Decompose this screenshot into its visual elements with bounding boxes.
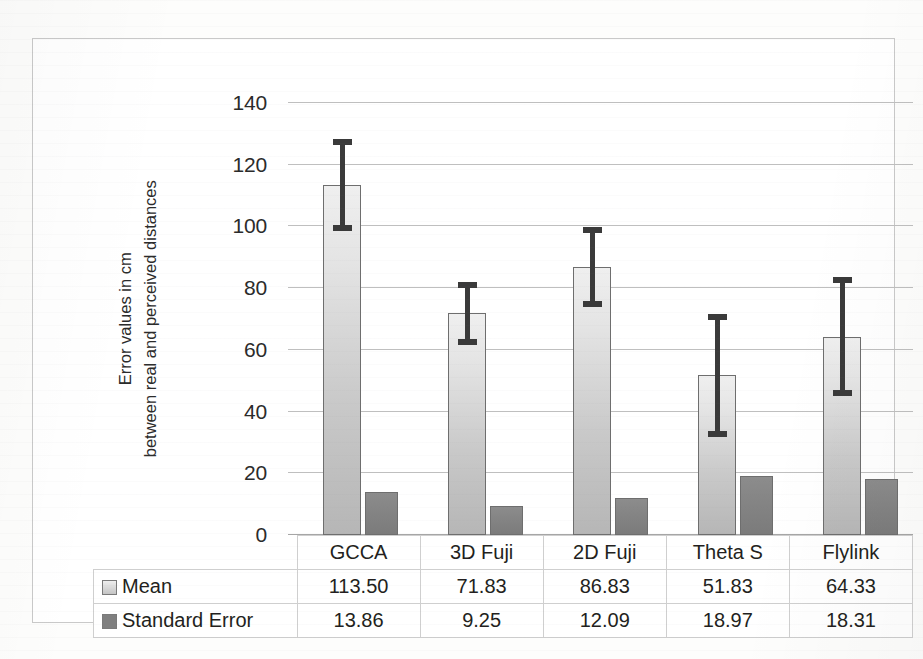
y-tick-label-100: 100: [233, 214, 267, 238]
y-tick-label-20: 20: [244, 461, 267, 485]
error-bar-gcca: [340, 142, 345, 228]
error-bar-cap-upper-3d-fuji: [458, 282, 477, 288]
table-cell-standard-error-flylink: 18.31: [789, 604, 912, 638]
bar-mean-3d-fuji: [448, 313, 486, 535]
y-axis-title: Error values in cm between real and perc…: [89, 103, 185, 535]
bar-mean-gcca: [323, 185, 361, 535]
y-tick-label-40: 40: [244, 400, 267, 424]
error-bar-flylink: [840, 280, 845, 393]
table-header-gcca: GCCA: [297, 536, 420, 570]
error-bar-cap-lower-gcca: [333, 225, 352, 231]
chart-frame: Error values in cm between real and perc…: [32, 38, 895, 623]
table-cell-mean-theta-s: 51.83: [666, 570, 789, 604]
error-bar-2d-fuji: [590, 230, 595, 305]
table-corner-cell: [94, 536, 298, 570]
error-bar-theta-s: [715, 317, 720, 434]
bar-standard-error-theta-s: [740, 476, 773, 535]
y-axis-title-line-1: Error values in cm: [112, 180, 137, 457]
plot-area: [288, 103, 913, 535]
error-bar-cap-upper-theta-s: [708, 314, 727, 320]
mean-swatch-icon: [102, 580, 117, 595]
y-axis-title-line-2: between real and perceived distances: [137, 180, 162, 457]
table-cell-standard-error-gcca: 13.86: [297, 604, 420, 638]
table-row: Mean113.5071.8386.8351.8364.33: [94, 570, 913, 604]
standard-error-swatch-icon: [102, 614, 117, 629]
table-cell-standard-error-theta-s: 18.97: [666, 604, 789, 638]
bar-standard-error-flylink: [865, 479, 898, 535]
table-cell-mean-2d-fuji: 86.83: [543, 570, 666, 604]
error-bar-cap-upper-2d-fuji: [583, 227, 602, 233]
bar-standard-error-gcca: [365, 492, 398, 535]
table-cell-mean-3d-fuji: 71.83: [420, 570, 543, 604]
y-tick-label-60: 60: [244, 338, 267, 362]
error-bar-cap-lower-flylink: [833, 390, 852, 396]
bar-group-flylink: [788, 103, 913, 535]
legend-label: Mean: [122, 575, 172, 597]
bar-group-3d-fuji: [413, 103, 538, 535]
bar-standard-error-3d-fuji: [490, 506, 523, 535]
bar-group-gcca: [288, 103, 413, 535]
y-tick-label-120: 120: [233, 153, 267, 177]
bar-group-theta-s: [663, 103, 788, 535]
bar-group-2d-fuji: [538, 103, 663, 535]
table-row-label-mean: Mean: [94, 570, 298, 604]
y-axis-tick-labels: 020406080100120140: [183, 103, 279, 535]
table-cell-standard-error-2d-fuji: 12.09: [543, 604, 666, 638]
error-bar-cap-lower-2d-fuji: [583, 301, 602, 307]
table-header-flylink: Flylink: [789, 536, 912, 570]
table-header-2d-fuji: 2D Fuji: [543, 536, 666, 570]
legend-label: Standard Error: [122, 609, 253, 631]
table-header-3d-fuji: 3D Fuji: [420, 536, 543, 570]
table-row-label-standard-error: Standard Error: [94, 604, 298, 638]
y-tick-label-80: 80: [244, 276, 267, 300]
bar-standard-error-2d-fuji: [615, 498, 648, 535]
error-bar-cap-upper-flylink: [833, 277, 852, 283]
table-header-theta-s: Theta S: [666, 536, 789, 570]
error-bar-3d-fuji: [465, 285, 470, 342]
table-cell-standard-error-3d-fuji: 9.25: [420, 604, 543, 638]
table-cell-mean-gcca: 113.50: [297, 570, 420, 604]
table-row: Standard Error13.869.2512.0918.9718.31: [94, 604, 913, 638]
y-tick-label-140: 140: [233, 91, 267, 115]
table-header-row: GCCA3D Fuji2D FujiTheta SFlylink: [94, 536, 913, 570]
table-cell-mean-flylink: 64.33: [789, 570, 912, 604]
error-bar-cap-lower-3d-fuji: [458, 339, 477, 345]
error-bar-cap-upper-gcca: [333, 139, 352, 145]
error-bar-cap-lower-theta-s: [708, 431, 727, 437]
data-table: GCCA3D Fuji2D FujiTheta SFlylinkMean113.…: [93, 535, 913, 638]
